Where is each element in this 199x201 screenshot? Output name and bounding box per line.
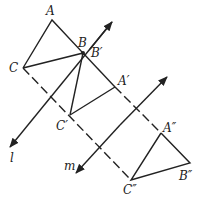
label-line-m: m [64, 160, 75, 172]
diagram-svg [0, 0, 199, 201]
point-b [81, 51, 85, 55]
label-c: C [9, 62, 18, 74]
label-a-dprime: A″ [163, 122, 176, 134]
label-c-dprime: C″ [123, 184, 137, 196]
label-b: B [78, 37, 87, 49]
reflection-diagram: A B B′ C A′ C′ A″ B″ C″ l m [0, 0, 199, 201]
label-b-prime: B′ [91, 47, 103, 59]
triangle-abc [23, 20, 83, 68]
dashed-a-path [115, 87, 161, 133]
label-b-dprime: B″ [179, 170, 192, 182]
label-a-prime: A′ [118, 75, 129, 87]
label-line-l: l [10, 152, 14, 164]
label-a: A [46, 5, 55, 17]
line-m [76, 125, 120, 173]
label-c-prime: C′ [56, 120, 68, 132]
